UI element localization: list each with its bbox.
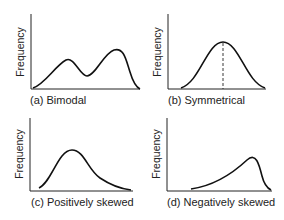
caption-negatively-skewed: (d) Negatively skewed xyxy=(167,196,275,208)
y-axis-label: Frequency xyxy=(150,128,162,178)
bimodal-curve xyxy=(33,50,140,89)
caption-symmetrical: (b) Symmetrical xyxy=(168,94,245,106)
panel-bimodal: Frequency (a) Bimodal xyxy=(14,14,140,106)
negatively-skewed-curve xyxy=(191,157,271,190)
caption-bimodal: (a) Bimodal xyxy=(30,94,86,106)
panel-positively-skewed: Frequency (c) Positively skewed xyxy=(13,118,134,208)
caption-positively-skewed: (c) Positively skewed xyxy=(31,196,134,208)
y-axis-label: Frequency xyxy=(13,128,25,178)
panel-negatively-skewed: Frequency (d) Negatively skewed xyxy=(150,118,275,208)
distribution-shapes-figure: Frequency (a) Bimodal Frequency (b) Symm… xyxy=(0,0,284,220)
y-axis-label: Frequency xyxy=(151,26,163,76)
y-axis-label: Frequency xyxy=(14,26,26,76)
panel-symmetrical: Frequency (b) Symmetrical xyxy=(151,14,266,106)
positively-skewed-curve xyxy=(39,150,131,190)
